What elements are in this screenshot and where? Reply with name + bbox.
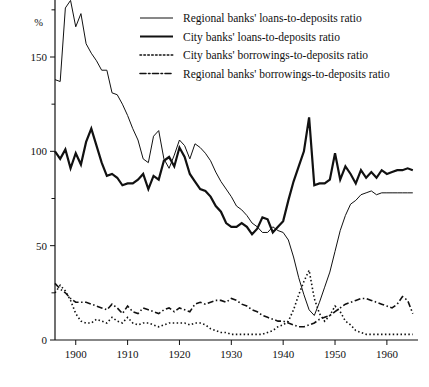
y-tick-label: 100	[31, 145, 48, 157]
y-tick-label: 50	[36, 240, 48, 252]
x-axis-tick-labels: 1900191019201930194019501960	[65, 348, 399, 360]
x-tick-label: 1940	[272, 348, 295, 360]
x-tick-label: 1960	[376, 348, 399, 360]
series-line-0	[55, 0, 413, 315]
line-chart: 050100150 1900191019201930194019501960 %…	[0, 0, 429, 387]
legend-label-1: City banks' loans-to-deposits ratio	[183, 31, 340, 44]
x-tick-label: 1920	[168, 348, 191, 360]
chart-container: 050100150 1900191019201930194019501960 %…	[0, 0, 429, 387]
series-line-2	[55, 270, 413, 334]
legend-label-3: Regional banks' borrowings-to-deposits r…	[183, 68, 390, 81]
y-tick-label: 150	[31, 51, 48, 63]
x-tick-label: 1950	[324, 348, 347, 360]
x-tick-label: 1930	[220, 348, 243, 360]
x-tick-label: 1910	[117, 348, 140, 360]
legend-label-0: Regional banks' loans-to-deposits ratio	[183, 12, 362, 25]
y-axis-tick-labels: 050100150	[31, 51, 48, 346]
y-tick-label: 0	[42, 334, 48, 346]
y-axis-unit-label: %	[34, 17, 43, 28]
legend-label-2: City banks' borrowings-to-deposits ratio	[183, 49, 368, 62]
series-line-1	[55, 117, 413, 234]
chart-legend: Regional banks' loans-to-deposits ratioC…	[140, 12, 390, 81]
x-tick-label: 1900	[65, 348, 88, 360]
